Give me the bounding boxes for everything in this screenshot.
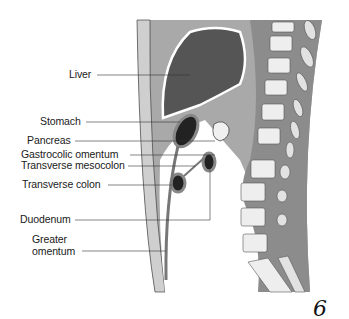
duodenum (203, 153, 215, 171)
label-transverse-colon: Transverse colon (22, 179, 101, 190)
label-liver: Liver (69, 69, 91, 80)
label-duodenum: Duodenum (20, 214, 71, 225)
label-transverse-mesocolon: Transverse mesocolon (21, 160, 125, 171)
label-pancreas: Pancreas (27, 135, 71, 146)
label-greater-omentum-line1: Greater (32, 234, 67, 245)
label-stomach: Stomach (40, 116, 81, 127)
figure-number: 6 (313, 296, 327, 319)
label-greater-omentum-line2: omentum (32, 246, 75, 257)
